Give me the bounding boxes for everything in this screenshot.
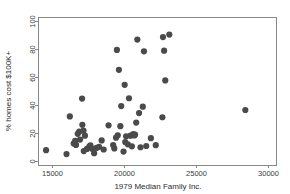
data-point — [117, 123, 123, 129]
data-point — [141, 48, 147, 54]
data-point — [129, 143, 135, 149]
y-tick-label: 20 — [28, 129, 37, 137]
data-point — [105, 122, 111, 128]
data-point — [114, 47, 120, 53]
data-points-group — [43, 31, 248, 157]
data-point — [99, 137, 105, 143]
data-point — [82, 133, 88, 139]
data-point — [73, 142, 79, 148]
data-point — [77, 136, 83, 142]
data-point — [161, 48, 167, 54]
x-tick-label: 25000 — [186, 169, 207, 178]
x-axis-title: 1979 Median Family Inc. — [114, 182, 201, 191]
data-point — [242, 107, 248, 113]
scatter-plot-figure: 15000200002500030000020406080100 1979 Me… — [0, 0, 290, 194]
x-tick-label: 20000 — [114, 169, 135, 178]
data-point — [153, 142, 159, 148]
data-point — [140, 104, 146, 110]
data-point — [148, 135, 154, 141]
data-point — [143, 143, 149, 149]
data-point — [166, 31, 172, 37]
data-point — [137, 144, 143, 150]
data-point — [162, 77, 168, 83]
y-tick-label: 80 — [28, 45, 37, 53]
y-tick-label: 0 — [28, 159, 37, 163]
data-point — [63, 151, 69, 157]
data-point — [159, 114, 165, 120]
data-point — [115, 132, 121, 138]
data-point — [122, 82, 128, 88]
plot-canvas: 15000200002500030000020406080100 1979 Me… — [0, 0, 290, 194]
y-tick-label: 40 — [28, 101, 37, 109]
data-point — [79, 95, 85, 101]
data-point — [43, 147, 49, 153]
data-point — [160, 34, 166, 40]
data-point — [118, 103, 124, 109]
data-point — [91, 150, 97, 156]
y-axis-title: % homes cost $100K+ — [4, 51, 13, 132]
y-tick-label: 100 — [28, 15, 37, 28]
data-point — [111, 145, 117, 151]
data-point — [79, 122, 85, 128]
data-point — [136, 110, 142, 116]
data-point — [120, 149, 126, 155]
x-tick-label: 15000 — [42, 169, 63, 178]
data-point — [116, 67, 122, 73]
data-point — [67, 113, 73, 119]
data-point — [134, 37, 140, 43]
data-point — [132, 132, 138, 138]
y-tick-label: 60 — [28, 73, 37, 81]
data-point — [101, 146, 107, 152]
data-point — [133, 119, 139, 125]
x-tick-label: 30000 — [258, 169, 279, 178]
data-point — [126, 95, 132, 101]
